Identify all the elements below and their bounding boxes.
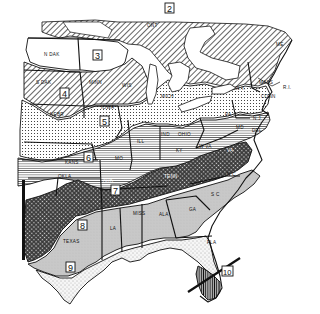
zone-8-marker: 8 bbox=[78, 220, 87, 231]
label-mo: MO bbox=[115, 156, 123, 161]
label-ga: GA bbox=[189, 207, 197, 212]
label-va: VA bbox=[227, 148, 234, 153]
zone-10-marker: 10 bbox=[222, 266, 233, 277]
label-ala: ALA bbox=[159, 212, 169, 217]
label-tenn: TENN bbox=[164, 174, 178, 179]
zone-5-marker: 5 bbox=[100, 116, 109, 127]
label-ark: ARK bbox=[103, 178, 114, 183]
zone-2-marker: 2 bbox=[165, 3, 174, 14]
label-ohio: OHIO bbox=[178, 132, 191, 137]
label-kans: KANS bbox=[65, 160, 79, 165]
label-ill: ILL bbox=[137, 139, 144, 144]
svg-text:4: 4 bbox=[62, 89, 67, 99]
label-fla: FLA bbox=[207, 240, 217, 245]
label-n-dak: N DAK bbox=[44, 52, 60, 57]
label-minn: MINN bbox=[89, 80, 102, 85]
label-ont: ONT bbox=[147, 23, 158, 28]
svg-text:3: 3 bbox=[95, 51, 100, 61]
label-wis: WIS bbox=[122, 83, 132, 88]
label-del: DEL bbox=[252, 128, 262, 133]
svg-text:6: 6 bbox=[86, 153, 91, 163]
label-ri: R.I. bbox=[283, 85, 291, 90]
label-mass: MASS bbox=[259, 80, 273, 85]
label-iowa: IOWA bbox=[101, 105, 115, 110]
label-me: ME bbox=[276, 42, 284, 47]
label-n-c: N C bbox=[227, 172, 236, 177]
label-s-dak: S DAK bbox=[36, 80, 52, 85]
svg-text:10: 10 bbox=[223, 268, 231, 277]
zone-3-region bbox=[26, 38, 128, 72]
label-ind: IND bbox=[161, 132, 170, 137]
svg-text:2: 2 bbox=[167, 4, 172, 14]
svg-text:8: 8 bbox=[80, 221, 85, 231]
label-miss: MISS bbox=[133, 211, 145, 216]
zone-9-marker: 9 bbox=[66, 262, 75, 273]
label-ny: N.Y. bbox=[236, 86, 246, 91]
svg-text:5: 5 bbox=[102, 117, 107, 127]
label-nebr: NEBR bbox=[50, 112, 64, 117]
label-mich: MICH bbox=[161, 94, 174, 99]
label-pa: PA bbox=[225, 112, 232, 117]
label-md: MD bbox=[236, 125, 244, 130]
zone-7-marker: 7 bbox=[111, 185, 120, 196]
label-okla: OKLA bbox=[58, 174, 72, 179]
zone-6-marker: 6 bbox=[84, 152, 93, 163]
zone-3-marker: 3 bbox=[93, 50, 102, 61]
svg-text:9: 9 bbox=[68, 263, 73, 273]
zone-4-marker: 4 bbox=[60, 88, 69, 99]
label-texas: TEXAS bbox=[63, 239, 80, 244]
zone-map: 2 3 4 5 6 7 8 9 10 ONT N DAK S DAK MINN … bbox=[0, 0, 320, 314]
svg-text:7: 7 bbox=[113, 186, 118, 196]
map-canvas: 2 3 4 5 6 7 8 9 10 ONT N DAK S DAK MINN … bbox=[0, 0, 320, 314]
label-ky: KY bbox=[176, 148, 183, 153]
label-nj: N.J. bbox=[253, 116, 262, 121]
label-s-c: S C bbox=[211, 192, 220, 197]
label-w-va: W VA bbox=[199, 144, 212, 149]
label-la: LA bbox=[110, 226, 117, 231]
label-conn: CONN bbox=[261, 94, 276, 99]
west-edge-bar bbox=[22, 180, 25, 260]
